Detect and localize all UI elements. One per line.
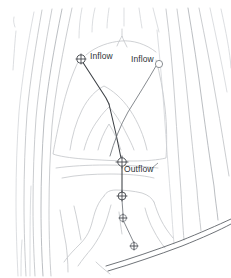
contour-line <box>13 31 16 70</box>
label-inflow-left: Inflow <box>90 52 113 61</box>
node-junction-1[interactable] <box>117 191 127 201</box>
contour-flow-map: Inflow Inflow Outflow <box>0 0 231 278</box>
flow-path-reach-2 <box>122 200 123 214</box>
valley-contour <box>60 210 68 272</box>
contour-line <box>188 8 218 220</box>
contour-line <box>79 8 82 38</box>
contour-line <box>30 186 31 276</box>
boundary-group <box>106 219 231 271</box>
valley-contour <box>96 262 110 274</box>
contour-line <box>21 240 22 276</box>
contour-line <box>107 8 109 28</box>
contour-line <box>153 8 159 32</box>
valley-contour <box>74 206 81 240</box>
flow-network <box>82 61 156 243</box>
valley-contour <box>154 202 173 238</box>
basin-contour-inner <box>98 124 121 150</box>
contour-line <box>49 8 72 276</box>
boundary-line-upper <box>106 219 231 266</box>
contour-line <box>177 9 201 231</box>
valley-contour <box>104 190 154 202</box>
basin-contour <box>62 174 154 178</box>
label-inflow-right: Inflow <box>131 55 154 64</box>
contour-group-right <box>157 8 231 244</box>
flow-path-inflow-left <box>82 61 109 104</box>
contour-line <box>14 17 15 27</box>
contour-group-lower <box>60 190 173 274</box>
contour-line <box>199 8 229 176</box>
flow-path-reach-3 <box>124 222 134 243</box>
valley-contour <box>145 208 165 248</box>
contour-line <box>41 9 62 276</box>
label-outflow: Outflow <box>124 165 154 174</box>
basin-contour-inner <box>70 86 147 150</box>
contour-line <box>139 8 142 28</box>
valley-contour <box>64 196 104 262</box>
contour-group-top <box>79 8 159 38</box>
flow-path-main-channel <box>109 104 121 158</box>
contour-line <box>221 9 231 68</box>
node-inflow-right[interactable] <box>155 60 162 67</box>
contour-line <box>92 8 95 32</box>
basin-contour-outer <box>53 60 167 161</box>
contour-group-left <box>13 8 72 276</box>
basin-contour-inner <box>84 107 134 150</box>
boundary-line-lower <box>108 224 231 271</box>
node-junction-3[interactable] <box>130 242 138 250</box>
flow-path-inflow-right <box>110 66 156 156</box>
map-canvas <box>0 0 231 278</box>
